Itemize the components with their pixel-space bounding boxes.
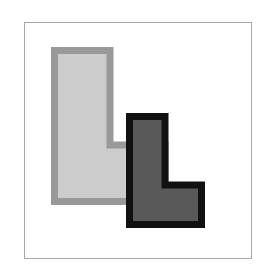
dark-l-shape: [130, 117, 202, 225]
image-canvas: [0, 0, 276, 269]
shapes-illustration: [0, 0, 276, 269]
